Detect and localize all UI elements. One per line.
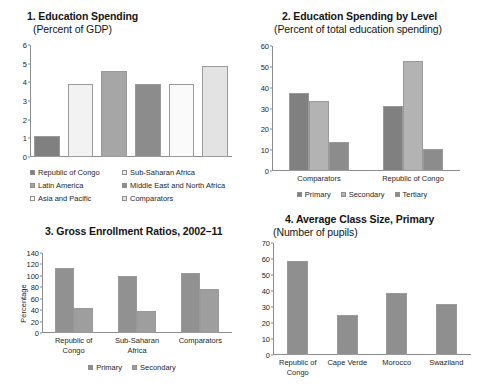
chart2-y-tickmark xyxy=(270,87,272,88)
chart3-legend-item[interactable]: Secondary xyxy=(132,363,176,372)
chart1-y-tickmark xyxy=(28,138,30,139)
chart4-y-tickmark xyxy=(271,355,273,356)
chart2-bar[interactable] xyxy=(329,142,349,171)
chart2-legend-item[interactable]: Secondary xyxy=(341,190,385,199)
chart2-y-tickmark xyxy=(270,66,272,67)
chart2-y-tick: 20 xyxy=(261,125,269,134)
chart1-bar[interactable] xyxy=(169,84,195,157)
chart2-title: 2. Education Spending by Level xyxy=(282,10,437,22)
chart1-legend-item[interactable]: Sub-Saharan Africa xyxy=(122,168,225,177)
chart2-y-tick: 50 xyxy=(261,62,269,71)
chart1-legend-item[interactable]: Asia and Pacific xyxy=(30,194,112,203)
chart1-y-tickmark xyxy=(28,45,30,46)
chart2-bar[interactable] xyxy=(403,61,423,171)
chart1-bar[interactable] xyxy=(202,66,228,157)
chart4-y-tickmark xyxy=(271,323,273,324)
chart1-legend-label: Asia and Pacific xyxy=(38,194,91,203)
chart1-title: 1. Education Spending xyxy=(27,10,138,22)
chart4-bar[interactable] xyxy=(436,304,457,355)
chart3-bar[interactable] xyxy=(200,289,219,333)
chart-panel-4: 4. Average Class Size, Primary (Number o… xyxy=(240,205,480,387)
legend-swatch-icon xyxy=(122,170,127,175)
chart3-bar[interactable] xyxy=(137,311,156,333)
chart2-legend-item[interactable]: Primary xyxy=(297,190,331,199)
chart4-bar[interactable] xyxy=(287,261,308,355)
legend-swatch-icon xyxy=(30,196,35,201)
chart1-y-tick: 4 xyxy=(23,78,27,87)
chart2-legend-item[interactable]: Tertiary xyxy=(395,190,428,199)
chart4-category-label: Cape Verde xyxy=(323,358,373,368)
chart3-y-tickmark xyxy=(40,253,42,254)
chart2-bar[interactable] xyxy=(383,106,403,171)
chart3-y-tick: 140 xyxy=(26,249,39,258)
chart1-bar[interactable] xyxy=(135,84,161,157)
chart4-bar[interactable] xyxy=(386,293,407,355)
chart1-bar[interactable] xyxy=(101,71,127,157)
legend-swatch-icon xyxy=(30,183,35,188)
legend-swatch-icon xyxy=(30,170,35,175)
chart3-y-tickmark xyxy=(40,264,42,265)
chart4-y-tick: 70 xyxy=(262,239,270,248)
chart3-y-tick: 100 xyxy=(26,271,39,280)
chart3-bar[interactable] xyxy=(74,308,93,333)
chart2-category-label: Republic of Congo xyxy=(366,174,460,184)
chart3-bar[interactable] xyxy=(55,268,74,333)
chart4-y-tick: 30 xyxy=(262,303,270,312)
chart1-legend-label: Sub-Saharan Africa xyxy=(130,168,195,177)
chart1-y-tick: 2 xyxy=(23,115,27,124)
chart2-y-tick: 40 xyxy=(261,83,269,92)
chart4-y-tickmark xyxy=(271,291,273,292)
chart3-plot-area: 020406080100120140 xyxy=(42,253,232,333)
chart2-bar[interactable] xyxy=(423,149,443,172)
chart1-bar[interactable] xyxy=(68,84,94,157)
chart2-legend-label: Tertiary xyxy=(403,190,428,199)
chart1-y-tick: 1 xyxy=(23,134,27,143)
chart4-category-label: Morocco xyxy=(372,358,422,368)
chart4-category-label: Swaziland xyxy=(422,358,472,368)
chart4-subtitle: (Number of pupils) xyxy=(273,226,358,238)
chart1-legend-item[interactable]: Comparators xyxy=(122,194,225,203)
chart1-bars xyxy=(30,45,232,157)
chart3-bar[interactable] xyxy=(181,273,200,333)
chart2-y-tickmark xyxy=(270,46,272,47)
legend-swatch-icon xyxy=(297,192,302,197)
chart1-y-tick: 6 xyxy=(23,41,27,50)
chart1-legend-item[interactable]: Middle East and North Africa xyxy=(122,181,225,190)
chart3-y-tickmark xyxy=(40,287,42,288)
chart4-bar[interactable] xyxy=(337,315,358,355)
chart3-y-tick: 40 xyxy=(31,306,39,315)
chart2-subtitle: (Percent of total education spending) xyxy=(274,23,442,35)
chart1-y-tickmark xyxy=(28,119,30,120)
chart4-y-tick: 40 xyxy=(262,287,270,296)
chart3-legend: PrimarySecondary xyxy=(52,363,222,374)
legend-swatch-icon xyxy=(341,192,346,197)
chart4-bars xyxy=(273,243,471,355)
chart3-y-tick: 80 xyxy=(31,283,39,292)
chart3-legend-label: Primary xyxy=(96,363,122,372)
chart2-bar[interactable] xyxy=(309,101,329,171)
chart-panel-3: 3. Gross Enrollment Ratios, 2002–11 Perc… xyxy=(0,205,240,387)
legend-swatch-icon xyxy=(122,196,127,201)
chart1-legend-label: Latin America xyxy=(38,181,83,190)
chart1-y-tick: 0 xyxy=(23,153,27,162)
chart2-legend: PrimarySecondaryTertiary xyxy=(282,190,452,201)
legend-swatch-icon xyxy=(88,365,93,370)
chart3-legend-item[interactable]: Primary xyxy=(88,363,122,372)
chart3-y-tickmark xyxy=(40,321,42,322)
chart2-legend-label: Primary xyxy=(305,190,331,199)
figure-sheet: 1. Education Spending (Percent of GDP) 0… xyxy=(0,0,480,387)
chart3-bar[interactable] xyxy=(118,276,137,333)
chart1-y-tickmark xyxy=(28,82,30,83)
chart1-bar[interactable] xyxy=(34,136,60,157)
chart1-legend-item[interactable]: Republic of Congo xyxy=(30,168,112,177)
chart1-legend-label: Middle East and North Africa xyxy=(130,181,225,190)
chart1-y-tick: 5 xyxy=(23,59,27,68)
chart1-y-tickmark xyxy=(28,63,30,64)
chart2-bar[interactable] xyxy=(289,93,309,171)
chart3-y-tickmark xyxy=(40,298,42,299)
chart4-y-tick: 60 xyxy=(262,255,270,264)
chart1-plot-area: 0123456 xyxy=(30,45,232,157)
chart1-legend-item[interactable]: Latin America xyxy=(30,181,112,190)
legend-swatch-icon xyxy=(132,365,137,370)
chart3-y-tickmark xyxy=(40,310,42,311)
